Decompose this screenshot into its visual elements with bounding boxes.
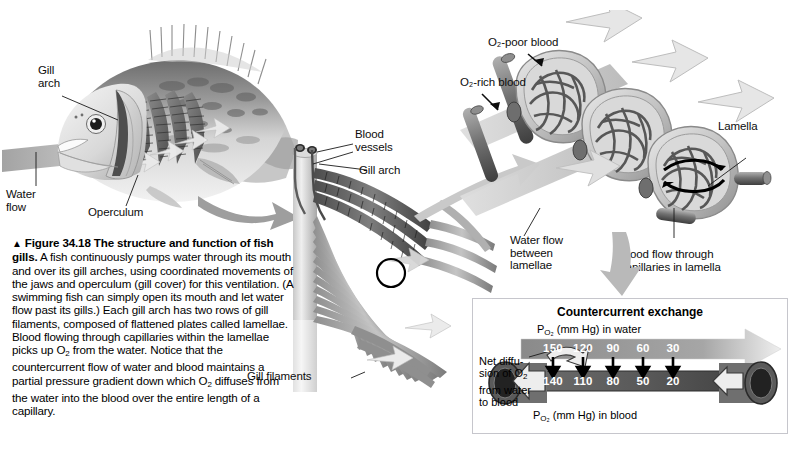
net-diffusion-label: Net diffu- sion of O2 from water to bloo… xyxy=(479,355,541,409)
lamella-label: Lamella xyxy=(718,120,758,133)
figure-34-18: Gill arch Water flow Operculum xyxy=(0,0,795,450)
water-po2-value-5: 30 xyxy=(658,342,688,354)
blood-po2-values: 140 110 80 50 20 xyxy=(538,375,688,387)
operculum-label: Operculum xyxy=(88,206,143,219)
water-po2-value-4: 60 xyxy=(628,342,658,354)
blood-vessels-label: Blood vessels xyxy=(355,128,393,153)
water-po2-value-2: 120 xyxy=(568,342,598,354)
figure-caption: ▲ Figure 34.18 The structure and functio… xyxy=(12,236,294,417)
caption-body-part-1: A fish continuously pumps water through … xyxy=(12,250,293,356)
water-po2-values: 150 120 90 60 30 xyxy=(538,342,688,354)
o2-poor-blood-label: O₂-poor blood xyxy=(488,36,558,49)
caption-figure-number: Figure 34.18 xyxy=(25,236,91,249)
net-diffusion-line-1: Net diffu- xyxy=(479,355,523,367)
net-diffusion-sub: 2 xyxy=(523,372,527,381)
water-po2-value-3: 90 xyxy=(598,342,628,354)
net-diffusion-line-2: sion of O xyxy=(479,367,523,379)
blood-po2-value-5: 20 xyxy=(658,375,688,387)
net-diffusion-line-3: from water xyxy=(479,384,531,396)
water-flow-between-lamellae-label: Water flow between lamellae xyxy=(510,234,563,272)
blood-po2-value-3: 80 xyxy=(598,375,628,387)
arch-gill-arch-label: Gill arch xyxy=(359,164,400,177)
transition-arrow-down-to-countercurrent xyxy=(598,232,650,298)
net-diffusion-line-4: to blood xyxy=(479,396,518,408)
fish-water-flow-label: Water flow xyxy=(6,188,36,213)
lamella-panel: O₂-poor blood O₂-rich blood Lamella Wate… xyxy=(460,10,795,260)
water-po2-value-1: 150 xyxy=(538,342,568,354)
caption-triangle-icon: ▲ xyxy=(12,238,22,249)
countercurrent-exchange-box: Countercurrent exchange PO₂ (mm Hg) in w… xyxy=(472,298,788,434)
blood-po2-value-2: 110 xyxy=(568,375,598,387)
blood-po2-value-4: 50 xyxy=(628,375,658,387)
blood-po2-value-1: 140 xyxy=(538,375,568,387)
o2-rich-blood-label: O₂-rich blood xyxy=(460,76,526,89)
fish-gill-arch-label: Gill arch xyxy=(38,64,60,89)
